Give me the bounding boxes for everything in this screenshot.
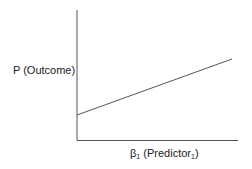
- x-axis-label: β1 (Predictor1): [130, 147, 199, 160]
- y-axis-label: P (Outcome): [13, 64, 75, 76]
- trend-line: [77, 59, 232, 115]
- diagram-canvas: [0, 0, 252, 169]
- predictor-text: (Predictor: [140, 147, 191, 159]
- closing-paren: ): [195, 147, 199, 159]
